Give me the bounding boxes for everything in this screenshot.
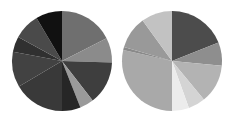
pie-charts-svg xyxy=(0,0,232,124)
pie-chart-left xyxy=(12,11,112,111)
pie-chart-right xyxy=(122,11,222,111)
chart-canvas xyxy=(0,0,232,124)
